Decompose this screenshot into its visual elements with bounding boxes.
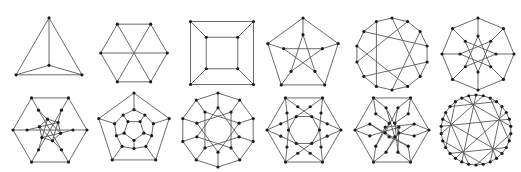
graph-vertex [476,16,479,19]
graph-edge [491,67,504,80]
graph-vertex [132,108,135,111]
graph-vertex [509,125,512,128]
graph-edge [122,146,134,148]
graph-vertex [319,145,322,148]
graph-edge [268,18,303,44]
graph-edge [321,98,322,113]
graph-vertex [189,20,192,23]
graph-edge [268,44,281,85]
graph-edge [376,18,392,22]
graph-vertex [252,83,255,86]
graph-edge [420,32,427,46]
graph-vertex [500,152,503,155]
graph-vertex [25,128,28,131]
graph-edge [364,22,377,32]
graph-vertex [407,112,410,115]
graph-vertex [323,83,326,86]
graph-edge [196,93,218,100]
graph-edge [357,62,364,76]
graph-edge [99,119,112,160]
graph-edge [303,18,338,44]
graph-edge [370,124,385,133]
graph-edge [478,79,503,90]
graph-vertex [476,34,479,37]
graph-vertex [216,151,219,154]
graph-edge [450,148,506,154]
graph-vertex [238,122,241,125]
graph-vertex [494,52,497,55]
graph-vertex [372,160,375,163]
graph-vertex [440,52,443,55]
graph-vertex [321,47,324,50]
graph-vertex [113,122,116,125]
graph-edge [231,148,240,160]
graph-vertex [509,132,512,135]
graph-vertex [384,106,387,109]
graph-vertex [482,163,485,166]
graph-vertex [51,139,54,142]
graph-vertex [444,146,447,149]
graph-vertex [236,67,239,70]
graph-vertex [384,151,387,154]
graph-edge [374,146,376,162]
graph-vertex [321,160,324,163]
graph-vertex [384,131,387,134]
graph-edge [134,93,169,119]
graph-edge [392,32,420,90]
graph-vertex [482,94,485,97]
graph-vertex [189,83,192,86]
graph-edge [183,100,196,119]
graph-vertex [413,122,416,125]
graph-edge [231,100,240,112]
graph-vertex [309,105,312,108]
graph-edge [357,22,408,62]
graph-edge [357,32,364,46]
graph-vertex [368,134,371,137]
graph-vertex [122,113,125,116]
graph-edge [322,44,338,49]
graph-edge [392,18,420,76]
graph-vertex [37,109,40,112]
graph-edge [145,115,153,124]
graph-edge [442,29,453,54]
graph-edge [191,22,207,38]
graph-vertex [310,142,313,145]
graph-vertex [238,98,241,101]
graph-vertex [355,60,358,63]
graph-vertex [85,128,88,131]
graph-edge [503,54,514,79]
graph-vertex [285,111,288,114]
graph-vertex [71,128,74,131]
graph-edge [323,130,342,162]
graph-edge [13,98,32,130]
graph-petersen [262,14,344,96]
graph-vertex [397,126,400,129]
graph-edge [152,124,154,136]
graph-vertex [390,16,393,19]
graph-vertex [282,47,285,50]
graph-vertex [319,111,322,114]
graph-vertex [14,73,17,76]
graph-vertex [310,115,313,118]
graph-edge [240,141,253,160]
graph-vertex [205,36,208,39]
graph-vertex [154,158,157,161]
graph-vertex [195,122,198,125]
graph-edge [61,150,68,162]
graph-vertex [252,20,255,23]
graph-vertex [284,96,287,99]
graph-vertex [419,30,422,33]
graph-vertex [203,146,206,149]
graph-vertex [195,158,198,161]
graph-vertex [181,117,184,120]
graph-edge [284,49,315,72]
graph-vertex [413,134,416,137]
graph-edge [453,67,466,80]
graph-vertex [489,96,492,99]
graph-edge [291,49,322,72]
graph-vertex [295,115,298,118]
graph-edge [321,147,322,162]
graph-vertex [123,132,126,135]
graph-vertex [419,75,422,78]
graph-edge [357,46,408,86]
